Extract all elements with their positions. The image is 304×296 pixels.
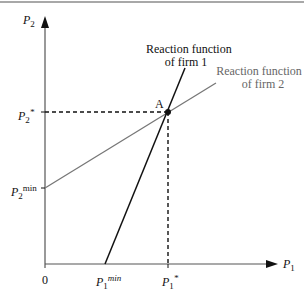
equilibrium-label: A bbox=[155, 98, 164, 110]
label-firm-2-line1: Reaction function bbox=[216, 65, 302, 77]
x-tick-p1-star: P1* bbox=[162, 272, 178, 292]
origin-label: 0 bbox=[42, 274, 48, 286]
label-firm-2: Reaction function of firm 2 bbox=[216, 65, 302, 90]
equilibrium-point bbox=[165, 109, 171, 115]
x-tick-p1-min: P1min bbox=[96, 272, 121, 292]
x-axis-label: P1 bbox=[283, 258, 295, 274]
y-axis-label: P2 bbox=[23, 14, 35, 30]
reaction-function-firm-2 bbox=[45, 83, 216, 188]
label-firm-1-line1: Reaction function bbox=[146, 43, 226, 55]
y-tick-p2-star: P2* bbox=[18, 106, 34, 126]
y-tick-p2-min: P2min bbox=[11, 182, 37, 202]
label-firm-1-line2: of firm 1 bbox=[146, 56, 226, 68]
reaction-function-firm-1 bbox=[105, 68, 185, 264]
x-axis-arrow-icon bbox=[266, 260, 278, 268]
y-axis-arrow-icon bbox=[41, 16, 49, 28]
label-firm-1: Reaction function of firm 1 bbox=[146, 43, 226, 68]
label-firm-2-line2: of firm 2 bbox=[216, 78, 302, 90]
